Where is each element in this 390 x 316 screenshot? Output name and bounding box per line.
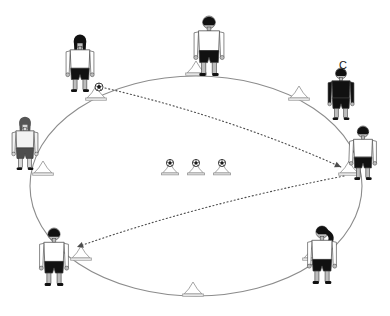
hand-right — [90, 73, 94, 77]
shorts — [16, 148, 33, 158]
shoe-left — [17, 167, 23, 170]
ball-layer — [95, 83, 226, 167]
hand-left — [349, 161, 353, 165]
shoe-right — [325, 281, 331, 284]
shoe-right — [28, 167, 34, 170]
cone-base — [71, 258, 92, 260]
soccer-ball-icon — [192, 159, 199, 166]
soccer-ball-icon — [218, 159, 225, 166]
arm-right — [220, 32, 224, 57]
hand-right — [333, 264, 337, 268]
torso-shirt — [44, 242, 64, 261]
neck — [207, 27, 211, 31]
shoe-left — [313, 281, 319, 284]
hand-left — [39, 266, 43, 270]
arm-left — [12, 132, 16, 153]
arm-right — [350, 82, 354, 103]
cone-base — [188, 173, 205, 175]
cone-icon — [33, 161, 54, 175]
shoe-right — [344, 117, 350, 120]
arrowhead — [334, 162, 341, 168]
torso-shirt — [332, 81, 350, 98]
leg-left — [335, 108, 339, 117]
cone-icon — [71, 246, 92, 260]
drill-diagram-svg — [0, 0, 390, 316]
arrow-layer — [77, 88, 344, 248]
leg-left — [356, 168, 360, 178]
shorts — [71, 68, 90, 79]
hand-left — [12, 152, 16, 156]
torso-shirt — [312, 240, 332, 259]
hand-right — [351, 102, 355, 106]
coach-label: C — [339, 60, 347, 71]
leg-left — [202, 63, 206, 74]
leg-right — [83, 79, 87, 89]
player-top-left — [66, 35, 94, 92]
shoe-right — [57, 283, 63, 286]
shoe-left — [71, 89, 77, 92]
cone-base — [86, 98, 107, 100]
cone-body — [290, 86, 308, 98]
cone-icon — [289, 86, 310, 100]
hand-left — [194, 55, 198, 59]
soccer-ball-icon — [166, 159, 173, 166]
shoe-left — [199, 73, 206, 76]
leg-right — [57, 273, 61, 283]
player-bottom-left — [39, 228, 68, 286]
leg-right — [28, 158, 32, 167]
arm-left — [194, 32, 198, 57]
arm-right — [90, 51, 94, 74]
neck — [52, 239, 56, 243]
arm-left — [308, 241, 312, 265]
shoe-left — [45, 283, 51, 286]
shoe-left — [354, 177, 360, 180]
cone-base — [183, 294, 204, 296]
neck — [320, 237, 324, 241]
drill-diagram-canvas: C — [0, 0, 390, 316]
soccer-ball-icon — [95, 83, 103, 91]
leg-left — [47, 273, 51, 283]
neck — [23, 128, 26, 131]
cone-base — [162, 173, 179, 175]
leg-left — [315, 271, 319, 281]
leg-right — [344, 108, 348, 117]
neck — [339, 78, 342, 81]
hand-right — [373, 161, 377, 165]
shoe-right — [366, 177, 372, 180]
hand-left — [328, 102, 332, 106]
arm-left — [328, 82, 332, 103]
cone-icon — [183, 282, 204, 296]
torso-shirt — [70, 50, 90, 68]
cone-base — [214, 173, 231, 175]
hand-right — [65, 266, 69, 270]
neck — [361, 136, 364, 139]
arm-left — [40, 243, 44, 267]
arm-left — [349, 140, 354, 162]
arm-right — [332, 241, 336, 265]
hand-left — [307, 264, 311, 268]
torso-shirt — [199, 31, 220, 51]
coach-figure — [328, 68, 354, 120]
shorts — [199, 51, 219, 63]
arm-right — [34, 132, 38, 153]
arm-right — [64, 243, 68, 267]
arm-right — [372, 140, 376, 162]
shorts — [354, 157, 372, 168]
shorts — [332, 98, 349, 108]
leg-left — [73, 79, 77, 89]
cone-body — [184, 282, 202, 294]
leg-left — [19, 158, 23, 167]
run-arrow-right-cone-to-bottom-left — [77, 176, 344, 248]
shoe-left — [333, 117, 339, 120]
hand-right — [35, 152, 39, 156]
hand-right — [220, 55, 224, 59]
shorts — [44, 261, 63, 273]
arrow-path — [77, 176, 344, 247]
cone-body — [34, 161, 52, 173]
figure-layer — [12, 16, 377, 286]
torso-shirt — [16, 131, 34, 148]
shoe-right — [83, 89, 89, 92]
cone-body — [72, 246, 90, 258]
neck — [78, 46, 82, 50]
leg-right — [212, 63, 216, 74]
